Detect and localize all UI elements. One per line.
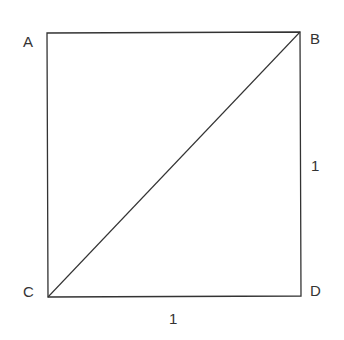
vertex-label-c: C [23, 283, 34, 300]
vertex-label-a: A [23, 33, 33, 50]
vertex-label-d: D [310, 282, 321, 299]
side-length-bottom: 1 [169, 310, 177, 327]
side-length-right: 1 [311, 157, 319, 174]
vertex-label-b: B [310, 30, 320, 47]
diagonal-cb [48, 32, 300, 297]
square-diagram: A B C D 1 1 [0, 0, 344, 340]
